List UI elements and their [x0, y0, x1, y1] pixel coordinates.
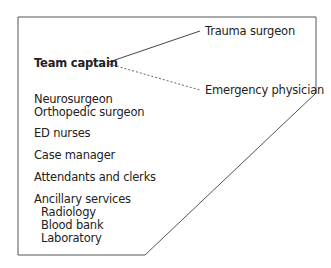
member-case-manager: Case manager	[34, 149, 115, 162]
solid-connector	[109, 31, 200, 62]
trauma-surgeon-label: Trauma surgeon	[205, 25, 295, 38]
member-attendants-clerks: Attendants and clerks	[34, 171, 156, 184]
member-ed-nurses: ED nurses	[34, 127, 90, 140]
ancillary-laboratory: Laboratory	[41, 232, 102, 245]
emergency-physician-label: Emergency physician	[205, 84, 324, 97]
member-orthopedic-surgeon: Orthopedic surgeon	[34, 106, 144, 119]
team-captain-label: Team captain	[34, 57, 118, 70]
dashed-connector	[109, 64, 200, 90]
